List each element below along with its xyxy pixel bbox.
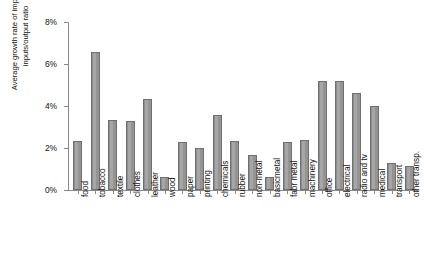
x-axis-label: printing (203, 170, 212, 197)
x-tick (252, 190, 253, 194)
x-axis-label: transport (395, 165, 404, 197)
y-tick: 2% (64, 148, 68, 149)
x-axis-label: clothes (133, 171, 142, 197)
x-tick (409, 190, 410, 194)
x-axis-label: non-metal (255, 161, 264, 197)
x-tick (200, 190, 201, 194)
x-axis-label: leather (151, 172, 160, 197)
x-axis-label: textile (116, 176, 125, 197)
x-tick (357, 190, 358, 194)
x-axis-label: paper (186, 176, 195, 197)
x-tick (165, 190, 166, 194)
x-axis-label: electrical (343, 165, 352, 197)
x-axis-label: rubber (238, 173, 247, 197)
x-tick (287, 190, 288, 194)
x-axis-label: office (325, 178, 334, 197)
y-tick-label: 0% (45, 185, 57, 195)
x-axis-label: medical (378, 169, 387, 197)
x-axis-label: other transp. (412, 151, 421, 197)
x-tick (148, 190, 149, 194)
x-tick (182, 190, 183, 194)
x-tick (305, 190, 306, 194)
x-tick (235, 190, 236, 194)
y-tick: 4% (64, 106, 68, 107)
y-tick-label: 6% (45, 59, 57, 69)
bar (318, 81, 327, 190)
x-axis-label: fabr metal (290, 161, 299, 197)
x-axis-label: radio and tv (360, 154, 369, 197)
x-tick (78, 190, 79, 194)
x-tick (392, 190, 393, 194)
x-axis-label: machinery (308, 159, 317, 197)
y-tick: 6% (64, 64, 68, 65)
x-tick (322, 190, 323, 194)
x-tick (217, 190, 218, 194)
y-tick-label: 8% (45, 17, 57, 27)
x-axis-label: basicmetal (273, 158, 282, 197)
x-axis-label: food (81, 181, 90, 197)
x-tick (95, 190, 96, 194)
x-tick (113, 190, 114, 194)
x-tick (339, 190, 340, 194)
x-tick (130, 190, 131, 194)
bar-chart: Average growth rate of imported inputs/o… (0, 0, 424, 280)
y-tick-label: 4% (45, 101, 57, 111)
x-axis-label: tobacco (98, 168, 107, 197)
y-axis-line (68, 22, 69, 191)
plot-area: 0%2%4%6%8% foodtobaccotextileclothesleat… (69, 22, 418, 190)
x-tick (374, 190, 375, 194)
y-tick-label: 2% (45, 143, 57, 153)
x-axis-label: chemicals (221, 161, 230, 197)
y-axis-title: Average growth rate of imported inputs/o… (10, 0, 36, 121)
y-tick: 0% (64, 190, 68, 191)
y-tick: 8% (64, 22, 68, 23)
x-axis-label: wood (168, 177, 177, 197)
x-tick (270, 190, 271, 194)
